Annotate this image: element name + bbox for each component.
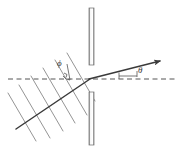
theta-angle-label: θ — [138, 66, 142, 75]
figure-canvas — [0, 0, 180, 150]
lower-barrier — [89, 92, 94, 145]
diffraction-figure: ϕ θ — [0, 0, 180, 150]
upper-barrier — [89, 8, 94, 65]
phi-angle-label: ϕ — [57, 59, 62, 68]
